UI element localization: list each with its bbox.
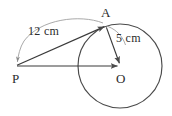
- measurement-label-radius: 5 cm: [116, 32, 141, 44]
- point-label-A: A: [101, 6, 110, 19]
- geometry-figure: A P O 12 cm 5 cm: [0, 0, 172, 116]
- point-label-P: P: [12, 72, 19, 85]
- measurement-label-pa: 12 cm: [28, 25, 59, 37]
- geometry-canvas: [0, 0, 172, 116]
- point-label-O: O: [116, 72, 125, 85]
